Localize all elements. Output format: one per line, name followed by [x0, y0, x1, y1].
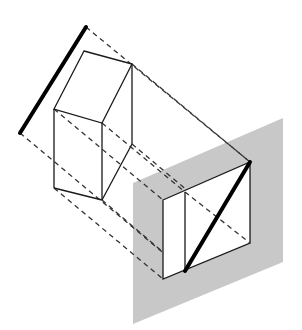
rectangular-prism	[54, 51, 132, 200]
projection-diagram	[0, 0, 302, 330]
dashed-projector-line	[54, 109, 163, 200]
dashed-projector-line	[132, 64, 250, 162]
box-bottom-edge	[102, 144, 132, 200]
